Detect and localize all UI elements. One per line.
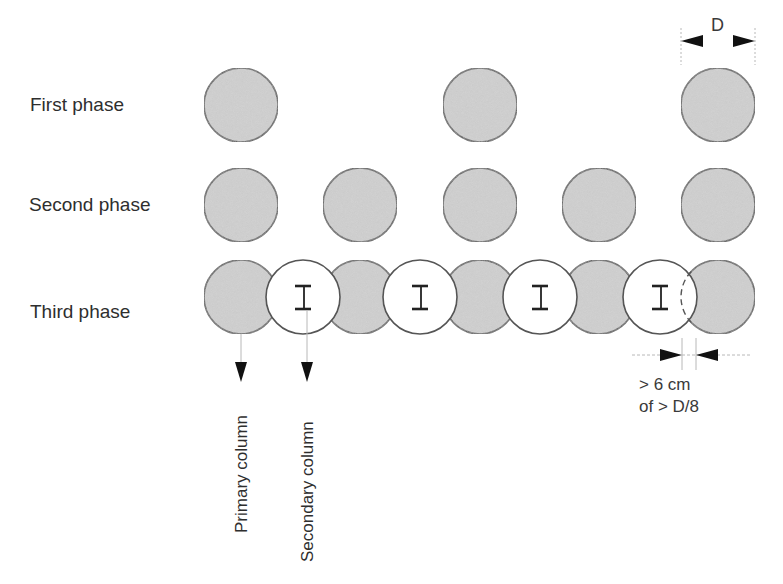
arrow-down-icon — [301, 362, 313, 382]
diameter-label: D — [711, 15, 724, 36]
secondary-pile — [266, 260, 340, 334]
secondary-pile — [383, 260, 457, 334]
primary-pile — [443, 68, 517, 142]
primary-pile — [562, 168, 636, 242]
overlap-label-line2: of > D/8 — [639, 397, 699, 417]
secondary-column-label: Secondary column — [298, 421, 318, 562]
secondary-pile — [623, 260, 697, 334]
secant-pile-diagram — [0, 0, 783, 584]
second-phase-label: Second phase — [29, 194, 151, 216]
arrow-right-icon — [733, 35, 755, 47]
primary-pile — [443, 168, 517, 242]
secondary-pile — [503, 260, 577, 334]
primary-pile — [323, 168, 397, 242]
first-phase-label: First phase — [30, 94, 124, 116]
pile-circles — [204, 68, 755, 334]
primary-column-label: Primary column — [232, 415, 252, 533]
arrow-right-icon — [660, 349, 682, 361]
arrow-left-icon — [681, 35, 703, 47]
primary-pile — [204, 168, 278, 242]
third-phase-label: Third phase — [30, 301, 130, 323]
arrow-down-icon — [235, 362, 247, 382]
primary-pile — [681, 168, 755, 242]
arrow-left-icon — [696, 349, 718, 361]
primary-pile — [204, 68, 278, 142]
primary-pile — [681, 68, 755, 142]
overlap-label-line1: > 6 cm — [639, 375, 691, 395]
